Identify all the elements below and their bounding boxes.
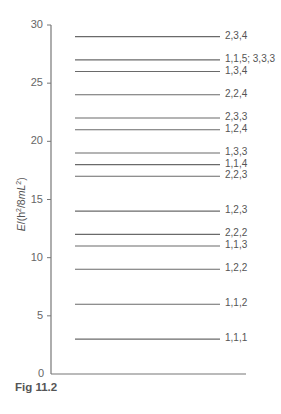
energy-levels: [75, 37, 220, 339]
energy-level-label: 2,2,2: [225, 227, 247, 238]
figure-caption: Fig 11.2: [15, 381, 57, 393]
energy-level-label: 2,3,3: [225, 111, 247, 122]
energy-level-label: 1,2,2: [225, 262, 247, 273]
energy-level-label: 1,3,4: [225, 65, 247, 76]
energy-level-label: 1,1,3: [225, 239, 247, 250]
y-tick-label: 20: [19, 134, 43, 146]
y-tick-label: 25: [19, 76, 43, 88]
energy-level-label: 1,1,4: [225, 158, 247, 169]
energy-level-label: 1,2,4: [225, 123, 247, 134]
y-tick-label: 10: [19, 251, 43, 263]
y-axis-label: E/(h2/8mL2): [15, 159, 28, 249]
y-tick-label: 0: [20, 367, 44, 379]
y-tick-label: 30: [19, 18, 43, 30]
y-tick-label: 5: [19, 309, 43, 321]
energy-level-label: 1,1,1: [225, 332, 247, 343]
energy-level-label: 2,2,4: [225, 88, 247, 99]
axes: [47, 25, 246, 374]
energy-level-label: 1,3,3: [225, 146, 247, 157]
energy-level-label: 2,3,4: [225, 30, 247, 41]
energy-level-label: 2,2,3: [225, 169, 247, 180]
energy-level-label: 1,2,3: [225, 204, 247, 215]
energy-level-chart: 051015202530 1,1,11,1,21,2,21,1,32,2,21,…: [0, 0, 281, 414]
energy-level-label: 1,1,5; 3,3,3: [225, 53, 275, 64]
energy-level-label: 1,1,2: [225, 297, 247, 308]
